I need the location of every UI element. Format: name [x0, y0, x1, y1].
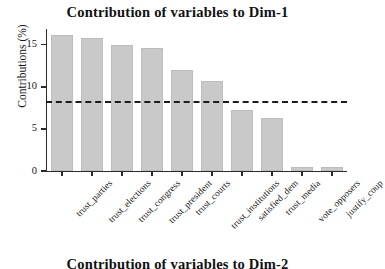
y-tick-0: [41, 170, 46, 171]
y-axis-label: Contributions (%): [16, 1, 28, 131]
x-tick: [301, 171, 302, 176]
bar-trust_institutions[interactable]: [201, 81, 223, 171]
chart-title: Contribution of variables to Dim-1: [0, 4, 355, 21]
bar-trust_congress[interactable]: [111, 45, 133, 171]
x-tick: [241, 171, 242, 176]
y-tick-label: 10: [0, 81, 37, 92]
next-panel-title: Contribution of variables to Dim-2: [0, 256, 355, 269]
y-tick-label: 0: [0, 166, 37, 177]
x-tick: [331, 171, 332, 176]
y-tick-label: 5: [0, 123, 37, 134]
y-tick-label: 15: [0, 39, 37, 50]
x-tick: [61, 171, 62, 176]
x-tick: [271, 171, 272, 176]
x-tick: [211, 171, 212, 176]
y-tick-5: [41, 128, 46, 129]
bar-trust_courts[interactable]: [171, 70, 193, 171]
x-tick: [91, 171, 92, 176]
x-tick: [181, 171, 182, 176]
bar-justify_coup[interactable]: [321, 167, 343, 171]
y-tick-15: [41, 44, 46, 45]
y-tick-10: [41, 86, 46, 87]
plot-area: [47, 28, 347, 171]
reference-line: [46, 101, 347, 103]
bar-trust_media[interactable]: [261, 118, 283, 171]
bar-trust_president[interactable]: [141, 48, 163, 171]
bar-vote_opposers[interactable]: [291, 167, 313, 171]
bar-satisfied_dem[interactable]: [231, 110, 253, 171]
x-tick: [151, 171, 152, 176]
bar-trust_elections[interactable]: [81, 38, 103, 171]
x-tick-label-trust_parties: trust_parties: [74, 178, 114, 218]
x-tick: [121, 171, 122, 176]
